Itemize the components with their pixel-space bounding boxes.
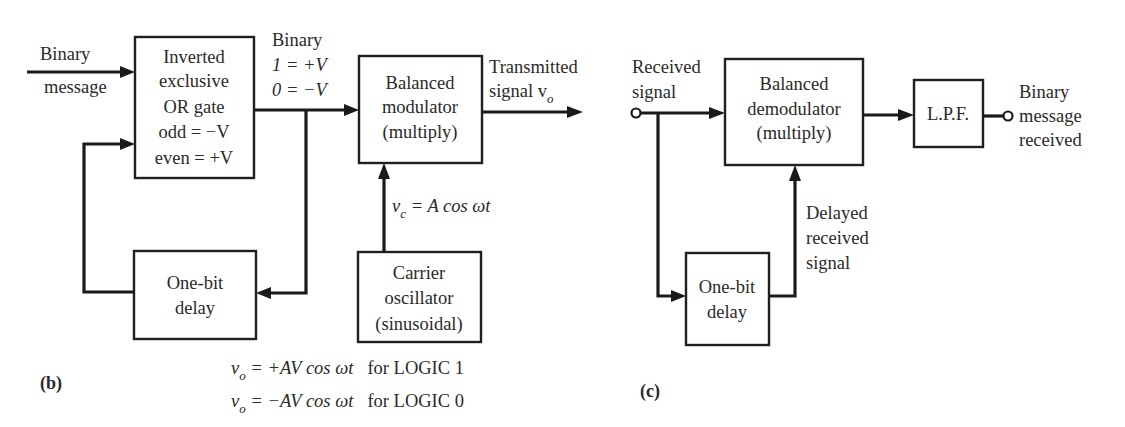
arrow-icon <box>344 104 359 116</box>
modulator-line3: (multiply) <box>382 122 457 143</box>
arrow-icon <box>256 287 271 299</box>
one-bit-delay-box-c <box>686 253 769 345</box>
dpsk-block-diagram: Binary message Inverted exclusive OR gat… <box>0 0 1125 427</box>
output-label-line2: signal vo <box>489 81 554 106</box>
lpf-label: L.P.F. <box>927 104 969 124</box>
arrow-icon <box>671 290 686 302</box>
output-received-line2: message <box>1019 106 1082 126</box>
equation-logic-0: vo = −AV cos ωtfor LOGIC 0 <box>231 391 464 416</box>
delay-b-line2: delay <box>175 298 216 318</box>
output-label-line1: Transmitted <box>489 57 578 77</box>
modulator-line2: modulator <box>382 97 458 117</box>
arrow-icon <box>709 107 725 119</box>
carrier-line2: oscillator <box>385 288 454 308</box>
panel-label-c: (c) <box>640 381 660 402</box>
feedback-wire <box>84 144 134 292</box>
carrier-line1: Carrier <box>393 263 445 283</box>
input-terminal-icon <box>632 109 641 118</box>
delayed-label-line3: signal <box>806 253 850 273</box>
one-bit-delay-box-b <box>134 251 256 339</box>
demodulator-line3: (multiply) <box>756 123 831 144</box>
arrow-icon <box>120 138 135 150</box>
output-terminal-icon <box>1004 112 1013 121</box>
arrow-icon <box>567 106 583 118</box>
xor-line2: exclusive <box>159 71 229 91</box>
output-received-line1: Binary <box>1019 82 1070 102</box>
demodulator-line1: Balanced <box>760 74 830 94</box>
xor-line4: odd = −V <box>158 122 230 142</box>
input-label-line2: message <box>44 77 107 97</box>
arrow-icon <box>789 165 801 181</box>
panel-label-b: (b) <box>40 373 62 394</box>
arrow-icon <box>378 163 390 179</box>
input-label-line1: Binary <box>40 44 91 64</box>
xor-line3: OR gate <box>163 97 224 117</box>
carrier-label: vc = A cos ωt <box>392 196 491 221</box>
tap-to-delay-c-wire <box>658 113 676 296</box>
xor-line5: even = +V <box>155 148 234 168</box>
tap-to-delay-wire <box>268 110 306 293</box>
panel-b-transmitter: Binary message Inverted exclusive OR gat… <box>27 30 583 416</box>
delayed-signal-wire <box>769 178 795 296</box>
modulator-line1: Balanced <box>386 73 456 93</box>
output-received-line3: received <box>1019 130 1082 150</box>
carrier-line3: (sinusoidal) <box>375 314 462 335</box>
binary-levels-line3: 0 = −V <box>272 80 329 100</box>
panel-c-receiver: Received signal Balanced demodulator (mu… <box>632 57 1083 402</box>
delay-c-line1: One-bit <box>699 277 756 297</box>
binary-levels-line2: 1 = +V <box>272 55 329 75</box>
received-label-line2: signal <box>632 82 676 102</box>
delayed-label-line1: Delayed <box>806 203 868 223</box>
demodulator-line2: demodulator <box>747 99 841 119</box>
received-label-line1: Received <box>632 57 702 77</box>
arrow-icon <box>898 109 914 121</box>
arrow-icon <box>120 66 135 78</box>
equation-logic-1: vo = +AV cos ωtfor LOGIC 1 <box>231 358 464 383</box>
delay-c-line2: delay <box>707 302 748 322</box>
delay-b-line1: One-bit <box>167 273 224 293</box>
delayed-label-line2: received <box>806 228 869 248</box>
xor-line1: Inverted <box>163 47 225 67</box>
binary-levels-line1: Binary <box>272 30 323 50</box>
